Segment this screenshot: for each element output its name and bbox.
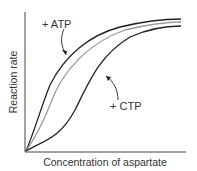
x-axis-label: Concentration of aspartate	[43, 156, 167, 168]
atp-curve	[26, 19, 181, 151]
y-axis-label: Reaction rate	[7, 51, 19, 114]
ctp-label: + CTP	[110, 100, 141, 112]
atp-label: + ATP	[42, 18, 71, 30]
atp-arrowhead-icon	[62, 50, 67, 55]
chart: + ATP + CTP Concentration of aspartate R…	[0, 0, 197, 171]
